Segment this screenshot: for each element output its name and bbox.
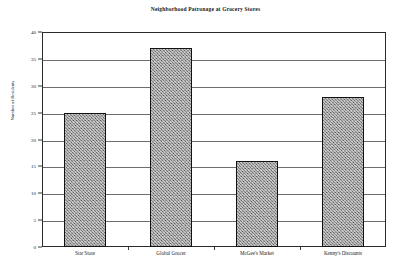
bar-slot [322, 32, 364, 247]
y-axis-tick-label: 20 [31, 137, 36, 142]
y-axis-tick-label: 25 [31, 110, 36, 115]
y-axis-tick-label: 40 [31, 30, 36, 35]
x-axis-tick-mark [214, 247, 215, 250]
x-axis-tick-label: Kenny's Discounts [324, 250, 362, 256]
x-axis-tick-mark [300, 247, 301, 250]
y-axis-tick-label: 15 [31, 164, 36, 169]
x-axis-tick-mark [128, 247, 129, 250]
bar[interactable] [322, 97, 364, 248]
bar-slot [150, 32, 192, 247]
bars-container [42, 32, 386, 247]
y-axis-tick-label: 10 [31, 191, 36, 196]
bar[interactable] [150, 48, 192, 247]
bar[interactable] [64, 113, 106, 247]
y-axis-tick-label: 0 [34, 245, 37, 250]
y-axis-tick-labels: 0510152025303540 [0, 32, 42, 247]
x-axis-tick-label: Global Grocer [156, 250, 185, 256]
x-axis-tick-label: McGee's Market [240, 250, 274, 256]
chart-title: Neighborhood Patronage at Grocery Stores [0, 6, 411, 12]
bar-chart: Neighborhood Patronage at Grocery Stores… [0, 0, 411, 273]
y-axis-tick-label: 35 [31, 56, 36, 61]
y-axis-tick-label: 30 [31, 83, 36, 88]
x-axis-tick-labels: Star StoreGlobal GrocerMcGee's MarketKen… [42, 250, 386, 266]
y-axis-tick-label: 5 [34, 218, 37, 223]
bar[interactable] [236, 161, 278, 247]
bar-slot [236, 32, 278, 247]
x-axis-tick-label: Star Store [75, 250, 95, 256]
bar-slot [64, 32, 106, 247]
